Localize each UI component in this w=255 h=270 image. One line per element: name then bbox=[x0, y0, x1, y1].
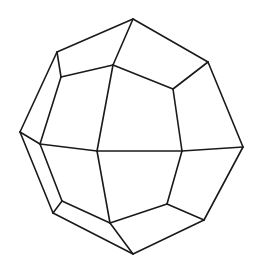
edge-inner_left-inner_lower_left bbox=[40, 144, 62, 201]
polyhedron-diagram bbox=[0, 0, 255, 270]
edge-center_right-right bbox=[182, 147, 243, 151]
edge-inner_lower_left-inner_bottom bbox=[62, 201, 110, 223]
edge-inner_bottom_right-lower_right bbox=[167, 204, 204, 220]
polyhedron-wireframe bbox=[0, 0, 255, 270]
edge-right-upper_right bbox=[208, 62, 243, 147]
edge-center_left-inner_top bbox=[97, 65, 113, 151]
edge-bottom-lower_right bbox=[133, 220, 204, 254]
edge-center_left-inner_bottom bbox=[97, 151, 110, 223]
edge-inner_upper_left-inner_top bbox=[61, 65, 113, 77]
edge-inner_right-upper_right bbox=[173, 62, 208, 89]
edge-upper_left-inner_upper_left bbox=[57, 52, 61, 77]
edge-inner_top-inner_right bbox=[113, 65, 173, 89]
edge-inner_bottom-inner_bottom_right bbox=[110, 204, 167, 223]
edge-inner_bottom-bottom bbox=[110, 223, 133, 254]
edge-inner_right-center_right bbox=[173, 89, 182, 151]
edge-left-lower_left bbox=[20, 132, 53, 213]
edge-upper_left-left bbox=[20, 52, 57, 132]
edge-inner_upper_left-inner_left bbox=[40, 77, 61, 144]
edge-inner_lower_left-lower_left bbox=[53, 201, 62, 213]
edge-upper_right-top bbox=[133, 19, 208, 62]
edge-inner_bottom_right-center_right bbox=[167, 151, 182, 204]
edge-inner_left-center_left bbox=[40, 144, 97, 151]
edge-lower_right-right bbox=[204, 147, 243, 220]
